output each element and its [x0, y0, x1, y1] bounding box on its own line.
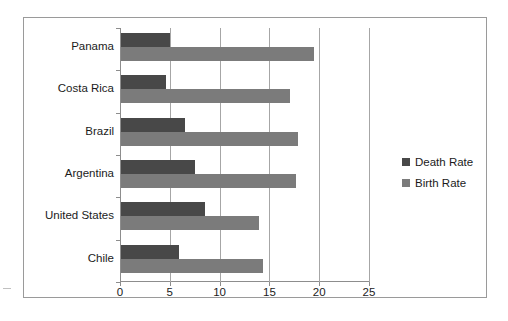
bar-death-rate[interactable]: [121, 118, 185, 132]
bar-death-rate[interactable]: [121, 75, 166, 89]
bar-death-rate[interactable]: [121, 160, 195, 174]
bar-group-costa-rica: [121, 70, 369, 112]
category-axis-labels: PanamaCosta RicaBrazilArgentinaUnited St…: [24, 28, 114, 282]
bar-group-brazil: [121, 113, 369, 155]
legend-item[interactable]: Death Rate: [402, 151, 486, 172]
value-axis-tick-label: 10: [213, 286, 226, 298]
bar-death-rate[interactable]: [121, 33, 170, 47]
bar-group-panama: [121, 28, 369, 70]
legend-swatch-icon: [402, 179, 410, 187]
category-label-argentina: Argentina: [65, 167, 114, 180]
legend-label: Birth Rate: [415, 177, 466, 189]
value-axis-tick-label: 20: [313, 286, 326, 298]
gridline-25: [369, 28, 370, 282]
bar-death-rate[interactable]: [121, 245, 179, 259]
legend-label: Death Rate: [415, 156, 473, 168]
category-axis-tick: [116, 197, 120, 198]
legend-swatch-icon: [402, 158, 410, 166]
chart-frame: PanamaCosta RicaBrazilArgentinaUnited St…: [23, 17, 487, 298]
category-label-costa-rica: Costa Rica: [58, 82, 114, 95]
value-axis-tick-label: 25: [363, 286, 376, 298]
scan-artifact: [3, 288, 11, 289]
plot-area: [120, 28, 369, 282]
bar-birth-rate[interactable]: [121, 132, 298, 146]
bar-death-rate[interactable]: [121, 202, 205, 216]
category-axis-tick: [116, 113, 120, 114]
bar-group-united-states: [121, 197, 369, 239]
bar-birth-rate[interactable]: [121, 89, 290, 103]
category-axis-tick: [116, 70, 120, 71]
bar-birth-rate[interactable]: [121, 174, 296, 188]
bar-birth-rate[interactable]: [121, 216, 259, 230]
chart-legend: Death RateBirth Rate: [402, 151, 486, 193]
value-axis-tick-label: 5: [167, 286, 173, 298]
bar-group-chile: [121, 240, 369, 282]
category-label-united-states: United States: [45, 209, 114, 222]
bar-birth-rate[interactable]: [121, 47, 314, 61]
value-axis-tick-label: 15: [263, 286, 276, 298]
category-label-chile: Chile: [88, 252, 114, 265]
category-label-panama: Panama: [71, 40, 114, 53]
legend-item[interactable]: Birth Rate: [402, 172, 486, 193]
category-axis-tick: [116, 28, 120, 29]
value-axis-tick-labels: 0510152025: [120, 286, 370, 304]
value-axis-tick-label: 0: [117, 286, 123, 298]
category-axis-tick: [116, 240, 120, 241]
category-axis-tick: [116, 282, 120, 283]
bar-birth-rate[interactable]: [121, 259, 263, 273]
bar-group-argentina: [121, 155, 369, 197]
category-axis-tick: [116, 155, 120, 156]
category-label-brazil: Brazil: [85, 125, 114, 138]
